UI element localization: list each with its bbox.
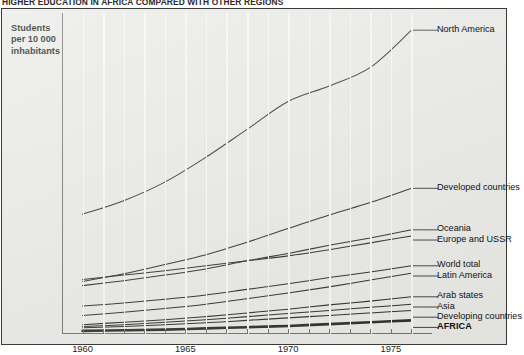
gridline-vertical (124, 13, 126, 334)
x-axis-tick (83, 329, 84, 334)
x-axis-tick (103, 329, 104, 334)
gridline-vertical (370, 13, 372, 334)
gridline-vertical (391, 13, 393, 334)
x-axis-tick (185, 329, 186, 334)
x-axis-tick (329, 329, 330, 334)
series-label-arab-states: Arab states (437, 290, 483, 300)
series-label-asia: Asia (437, 301, 455, 311)
gridline-vertical (83, 13, 85, 334)
chart-screenshot: HIGHER EDUCATION IN AFRICA COMPARED WITH… (0, 0, 524, 355)
gridline-vertical (329, 13, 331, 334)
gridline-vertical (103, 13, 105, 334)
x-axis-tick (309, 329, 310, 334)
series-label-developed-countries: Developed countries (437, 182, 520, 192)
plot-area: 0501001502002503003504004501960196519701… (62, 13, 432, 334)
gridline-vertical (247, 13, 249, 334)
gridline-vertical (268, 13, 270, 334)
series-label-oceania: Oceania (437, 223, 471, 233)
x-axis-tick-label: 1960 (60, 343, 106, 354)
series-label-world-total: World total (437, 259, 480, 269)
series-label-developing-countries: Developing countries (437, 311, 522, 321)
x-axis-tick-label: 1975 (368, 343, 414, 354)
gridline-vertical (206, 13, 208, 334)
x-axis-tick (391, 329, 392, 334)
gridline-vertical (288, 13, 290, 334)
x-axis-tick (165, 329, 166, 334)
gridline-vertical (165, 13, 167, 334)
x-axis-tick-label: 1965 (162, 343, 208, 354)
gridline-vertical (350, 13, 352, 334)
x-axis-tick (268, 329, 269, 334)
x-axis-tick (144, 329, 145, 334)
gridline-vertical (309, 13, 311, 334)
series-label-latin-america: Latin America (437, 270, 492, 280)
gridline-vertical (226, 13, 228, 334)
x-axis-tick (206, 329, 207, 334)
x-axis-tick (124, 329, 125, 334)
x-axis-tick (288, 329, 289, 334)
chart-figure: Students per 10 000 inhabitants 05010015… (1, 8, 507, 345)
series-label-europe-and-ussr: Europe and USSR (437, 234, 512, 244)
x-axis-tick (370, 329, 371, 334)
gridline-vertical (144, 13, 146, 334)
gridline-vertical (411, 13, 413, 334)
gridline-vertical (185, 13, 187, 334)
x-axis-tick (411, 329, 412, 334)
page-title: HIGHER EDUCATION IN AFRICA COMPARED WITH… (2, 0, 422, 8)
x-axis-tick (350, 329, 351, 334)
x-axis-tick-label: 1970 (265, 343, 311, 354)
x-axis-tick (226, 329, 227, 334)
series-label-africa: AFRICA (437, 321, 472, 331)
x-axis-tick (247, 329, 248, 334)
series-label-north-america: North America (437, 24, 495, 34)
